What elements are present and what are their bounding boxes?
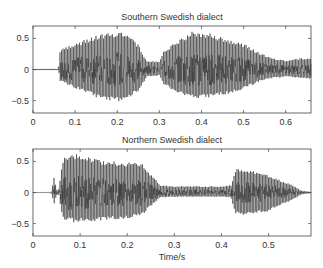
southern-dialect-plot: Southern Swedish dialect 00.10.20.30.40.… [11,12,311,127]
x-axis-label: Time/s [159,252,186,262]
x-tick-label: 0.3 [153,117,166,127]
x-tick-label: 0.2 [121,240,134,250]
waveform-figure: Southern Swedish dialect 00.10.20.30.40.… [0,0,323,268]
northern-dialect-plot: Northern Swedish dialect 00.10.20.30.40.… [11,135,311,250]
y-tick-label: −0.5 [11,219,29,229]
southern-plot-title: Southern Swedish dialect [121,12,223,22]
x-tick-label: 0.6 [279,117,292,127]
northern-plot-title: Northern Swedish dialect [122,135,223,145]
x-tick-label: 0.1 [74,240,87,250]
x-tick-label: 0 [30,117,35,127]
y-tick-label: 0.5 [16,33,29,43]
x-tick-label: 0.5 [237,117,250,127]
x-tick-label: 0.5 [262,240,275,250]
x-tick-label: 0 [30,240,35,250]
y-tick-label: 0.5 [16,156,29,166]
x-tick-label: 0.1 [69,117,82,127]
y-tick-label: −0.5 [11,96,29,106]
x-tick-label: 0.3 [168,240,181,250]
y-tick-label: 0 [24,65,29,75]
x-tick-label: 0.2 [111,117,124,127]
y-tick-label: 0 [24,188,29,198]
southern-waveform [33,32,311,101]
x-tick-label: 0.4 [215,240,228,250]
northern-waveform [33,154,311,222]
figure: Southern Swedish dialect 00.10.20.30.40.… [0,0,323,268]
x-tick-label: 0.4 [195,117,208,127]
